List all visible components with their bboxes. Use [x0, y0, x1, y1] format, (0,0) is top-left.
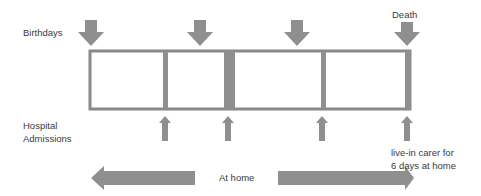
hospital-stay-bar: [321, 51, 326, 109]
hospital-stay-bar: [163, 51, 168, 109]
death-label: Death: [392, 8, 417, 21]
hospital-stay-bar: [405, 51, 411, 109]
birthday-arrow-down-icon: [78, 20, 104, 46]
admission-arrow-up-icon: [316, 116, 328, 141]
hospital-admissions-label-line2: Admissions: [23, 132, 72, 145]
admission-arrow-up-icon: [222, 116, 234, 141]
admission-arrow-up-icon: [159, 116, 171, 141]
hospital-stay-bar: [224, 51, 235, 109]
at-home-label: At home: [219, 171, 254, 184]
carer-note-line1: live-in carer for: [391, 146, 454, 159]
hospital-admissions-label-line1: Hospital: [23, 119, 57, 132]
birthdays-label: Birthdays: [23, 26, 63, 39]
admission-arrow-up-icon: [401, 116, 413, 141]
at-home-arrow-left-icon: [91, 166, 195, 190]
death-arrow-down-icon: [394, 22, 420, 46]
birthday-arrow-down-icon: [284, 20, 310, 46]
birthday-arrow-down-icon: [187, 20, 213, 46]
timeline-box: [90, 51, 410, 109]
carer-note-line2: 6 days at home: [391, 159, 456, 172]
